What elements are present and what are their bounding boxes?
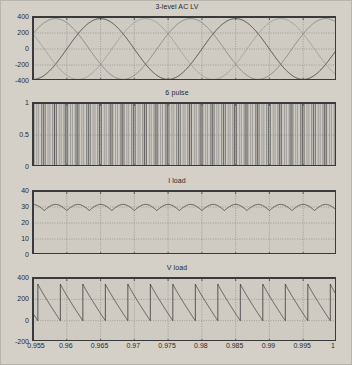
subplot-6-pulse: 6 pulse 1 0.5 0	[1, 89, 352, 175]
subplot-3-ytick-0: 0	[3, 251, 29, 258]
subplot-1-ytick-n200: -200	[3, 61, 29, 68]
subplot-4-ytick-n200: -200	[3, 338, 29, 345]
subplot-1-ytick-0: 0	[3, 45, 29, 52]
scope-figure-window: 3-level AC LV 400 200 0 -200 -400	[0, 0, 352, 365]
subplot-1-ytick-400: 400	[3, 13, 29, 20]
x-tick-0.985: 0.985	[226, 342, 244, 349]
subplot-2-title: 6 pulse	[1, 89, 352, 96]
subplot-1-title: 3-level AC LV	[1, 3, 352, 10]
x-tick-0.98: 0.98	[194, 342, 208, 349]
subplot-2-ytick-1: 1	[3, 99, 29, 106]
subplot-3-ytick-40: 40	[3, 187, 29, 194]
subplot-4-title: V load	[1, 264, 352, 271]
subplot-2-ytick-05: 0.5	[3, 131, 29, 138]
subplot-3-ytick-20: 20	[3, 219, 29, 226]
subplot-i-load: I load 40 30 20 10 0	[1, 177, 352, 263]
subplot-2-ytick-0: 0	[3, 163, 29, 170]
x-tick-0.955: 0.955	[27, 342, 45, 349]
x-tick-0.96: 0.96	[59, 342, 73, 349]
subplot-3-level-ac-lv: 3-level AC LV 400 200 0 -200 -400	[1, 3, 352, 89]
x-tick-0.965: 0.965	[91, 342, 109, 349]
subplot-4-ytick-0: 0	[3, 317, 29, 324]
x-axis-tick-labels: 0.9550.960.9650.970.9750.980.9850.990.99…	[32, 342, 336, 354]
x-tick-0.995: 0.995	[293, 342, 311, 349]
x-tick-0.97: 0.97	[127, 342, 141, 349]
subplot-1-ytick-n400: -400	[3, 77, 29, 84]
subplot-2-plot-area	[32, 102, 336, 166]
x-tick-0.99: 0.99	[262, 342, 276, 349]
subplot-3-plot-area	[32, 190, 336, 254]
x-tick-1: 1	[331, 342, 335, 349]
subplot-v-load: V load 400 200 0 -200	[1, 264, 352, 364]
subplot-3-ytick-30: 30	[3, 203, 29, 210]
subplot-4-ytick-400: 400	[3, 274, 29, 281]
subplot-4-ytick-200: 200	[3, 295, 29, 302]
subplot-4-plot-area	[32, 277, 336, 341]
subplot-3-ytick-10: 10	[3, 235, 29, 242]
x-tick-0.975: 0.975	[158, 342, 176, 349]
subplot-1-ytick-200: 200	[3, 29, 29, 36]
subplot-1-plot-area	[32, 16, 336, 80]
subplot-3-title: I load	[1, 177, 352, 184]
